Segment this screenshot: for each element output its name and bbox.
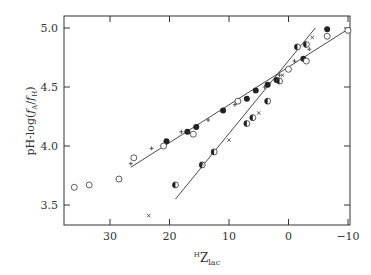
filled-circle-marker	[184, 129, 190, 135]
x-tick-label: 30	[103, 230, 117, 243]
x-axis-ticks: 3020100−10	[103, 16, 360, 243]
x-tick-label: 20	[163, 230, 177, 243]
open-circle-marker	[235, 98, 241, 104]
x-axis-label: HZlac	[194, 251, 221, 267]
cross-marker	[147, 214, 150, 217]
filled-circle-marker	[220, 108, 226, 114]
open-circle-marker	[116, 176, 122, 182]
cross-marker	[227, 138, 230, 141]
fit-line	[175, 28, 315, 199]
filled-circle-marker	[324, 26, 330, 32]
half-circle-marker	[211, 149, 217, 155]
open-circle-marker	[86, 182, 92, 188]
filled-circle-marker	[193, 124, 199, 130]
plus-marker	[150, 146, 154, 150]
open-circle-marker	[286, 66, 292, 72]
open-circle-marker	[303, 58, 309, 64]
half-circle-marker	[250, 115, 256, 121]
open-circle-marker	[161, 143, 167, 149]
cross-marker	[257, 111, 260, 114]
y-axis-label: pH-log(fA/fH)	[24, 86, 39, 155]
cross-marker	[311, 36, 314, 39]
y-tick-label: 3.5	[41, 199, 59, 212]
half-circle-marker	[265, 98, 271, 104]
fit-lines	[131, 28, 348, 199]
plus-marker	[307, 47, 311, 51]
x-tick-label: 10	[222, 230, 236, 243]
filled-circle-marker	[253, 88, 259, 94]
half-circle-marker	[303, 42, 309, 48]
y-tick-label: 5.0	[41, 22, 59, 35]
open-circle-marker	[190, 131, 196, 137]
half-circle-marker	[244, 121, 250, 127]
open-circle-marker	[71, 184, 77, 190]
half-circle-marker	[199, 162, 205, 168]
open-circle-marker	[324, 33, 330, 39]
plus-marker	[179, 130, 183, 134]
open-circle-marker	[131, 155, 137, 161]
y-tick-label: 4.0	[41, 140, 59, 153]
half-circle-marker	[277, 78, 283, 84]
chart: 3020100−10 3.54.04.55.0 pH-log(fA/fH) HZ…	[0, 0, 371, 275]
data-points	[71, 26, 351, 217]
half-circle-marker	[172, 182, 178, 188]
half-circle-marker	[294, 44, 300, 50]
y-tick-label: 4.5	[41, 81, 59, 94]
x-tick-label: 0	[285, 230, 292, 243]
x-tick-label: −10	[336, 230, 359, 243]
filled-circle-marker	[244, 96, 250, 102]
open-circle-marker	[345, 27, 351, 33]
plus-marker	[129, 162, 133, 166]
